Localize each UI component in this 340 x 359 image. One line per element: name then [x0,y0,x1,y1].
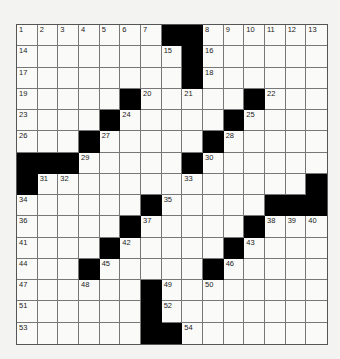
grid-cell[interactable]: 45 [100,259,121,280]
grid-cell[interactable] [120,174,141,195]
grid-cell[interactable] [141,131,162,152]
grid-cell[interactable] [100,89,121,110]
grid-cell[interactable]: 27 [100,131,121,152]
grid-cell[interactable] [38,68,59,89]
grid-cell[interactable]: 53 [17,323,38,344]
grid-cell[interactable] [38,238,59,259]
grid-cell[interactable] [286,110,307,131]
grid-cell[interactable]: 30 [203,153,224,174]
grid-cell[interactable]: 6 [120,25,141,46]
grid-cell[interactable] [224,68,245,89]
grid-cell[interactable] [120,259,141,280]
grid-cell[interactable] [141,174,162,195]
grid-cell[interactable] [162,216,183,237]
grid-cell[interactable] [100,301,121,322]
grid-cell[interactable] [120,323,141,344]
grid-cell[interactable] [162,89,183,110]
grid-cell[interactable] [182,110,203,131]
grid-cell[interactable] [286,46,307,67]
grid-cell[interactable] [58,89,79,110]
grid-cell[interactable]: 39 [286,216,307,237]
grid-cell[interactable]: 26 [17,131,38,152]
grid-cell[interactable] [79,323,100,344]
grid-cell[interactable]: 43 [244,238,265,259]
grid-cell[interactable] [203,174,224,195]
grid-cell[interactable] [265,238,286,259]
grid-cell[interactable] [306,68,327,89]
grid-cell[interactable] [58,323,79,344]
grid-cell[interactable] [162,238,183,259]
grid-cell[interactable] [244,323,265,344]
grid-cell[interactable]: 8 [203,25,224,46]
grid-cell[interactable] [141,238,162,259]
grid-cell[interactable]: 5 [100,25,121,46]
grid-cell[interactable] [162,259,183,280]
grid-cell[interactable] [141,68,162,89]
grid-cell[interactable] [306,259,327,280]
grid-cell[interactable] [182,280,203,301]
grid-cell[interactable] [162,174,183,195]
grid-cell[interactable]: 44 [17,259,38,280]
grid-cell[interactable] [141,259,162,280]
grid-cell[interactable]: 4 [79,25,100,46]
grid-cell[interactable] [120,153,141,174]
grid-cell[interactable] [58,301,79,322]
grid-cell[interactable]: 9 [224,25,245,46]
grid-cell[interactable] [38,195,59,216]
grid-cell[interactable]: 41 [17,238,38,259]
grid-cell[interactable] [265,301,286,322]
grid-cell[interactable]: 19 [17,89,38,110]
grid-cell[interactable] [224,195,245,216]
grid-cell[interactable] [120,280,141,301]
grid-cell[interactable] [244,174,265,195]
grid-cell[interactable] [141,46,162,67]
grid-cell[interactable] [79,301,100,322]
grid-cell[interactable] [182,131,203,152]
grid-cell[interactable] [38,301,59,322]
grid-cell[interactable] [38,46,59,67]
grid-cell[interactable] [224,323,245,344]
grid-cell[interactable] [244,68,265,89]
grid-cell[interactable]: 37 [141,216,162,237]
grid-cell[interactable] [306,301,327,322]
grid-cell[interactable] [203,216,224,237]
grid-cell[interactable] [79,195,100,216]
grid-cell[interactable] [306,89,327,110]
grid-cell[interactable] [38,323,59,344]
grid-cell[interactable] [265,323,286,344]
grid-cell[interactable] [224,89,245,110]
grid-cell[interactable]: 1 [17,25,38,46]
grid-cell[interactable] [58,259,79,280]
grid-cell[interactable]: 12 [286,25,307,46]
grid-cell[interactable] [58,216,79,237]
grid-cell[interactable] [224,46,245,67]
grid-cell[interactable] [224,301,245,322]
grid-cell[interactable]: 10 [244,25,265,46]
grid-cell[interactable] [244,195,265,216]
grid-cell[interactable] [182,238,203,259]
grid-cell[interactable] [203,89,224,110]
grid-cell[interactable] [79,89,100,110]
grid-cell[interactable]: 31 [38,174,59,195]
grid-cell[interactable] [162,131,183,152]
grid-cell[interactable] [38,216,59,237]
grid-cell[interactable] [79,68,100,89]
grid-cell[interactable]: 18 [203,68,224,89]
grid-cell[interactable]: 22 [265,89,286,110]
grid-cell[interactable] [265,131,286,152]
grid-cell[interactable] [79,46,100,67]
grid-cell[interactable]: 3 [58,25,79,46]
grid-cell[interactable]: 48 [79,280,100,301]
grid-cell[interactable] [38,280,59,301]
grid-cell[interactable] [182,216,203,237]
grid-cell[interactable] [224,174,245,195]
grid-cell[interactable] [286,131,307,152]
grid-cell[interactable] [58,68,79,89]
grid-cell[interactable] [79,174,100,195]
grid-cell[interactable] [100,280,121,301]
grid-cell[interactable]: 49 [162,280,183,301]
grid-cell[interactable] [224,216,245,237]
grid-cell[interactable] [100,195,121,216]
grid-cell[interactable] [58,280,79,301]
grid-cell[interactable] [58,238,79,259]
